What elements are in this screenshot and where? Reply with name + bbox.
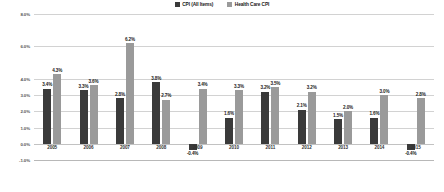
bar-group: -0.4%2.8%2015 xyxy=(398,14,434,160)
bar-group: 3.4%4.3%2005 xyxy=(34,14,70,160)
bar-value-label: 1.5% xyxy=(333,113,343,118)
x-axis-tick-label: 2010 xyxy=(229,145,239,150)
bar-cpi-2008[interactable] xyxy=(152,82,160,144)
bar-hc-2007[interactable] xyxy=(126,43,134,144)
bar-value-label: 2.1% xyxy=(297,103,307,108)
bar-group: 2.8%6.2%2007 xyxy=(107,14,143,160)
legend-swatch-cpi-icon xyxy=(175,2,180,7)
gridline: -1.0% xyxy=(34,160,434,161)
bar-value-label: 3.8% xyxy=(151,76,161,81)
y-axis-tick-label: 3.0% xyxy=(20,93,30,98)
bar-group: 1.6%3.3%2010 xyxy=(216,14,252,160)
bar-hc-2011[interactable] xyxy=(271,87,279,144)
bar-group: 3.8%2.7%2008 xyxy=(143,14,179,160)
x-axis-tick-label: 2007 xyxy=(120,145,130,150)
bar-value-label: 6.2% xyxy=(125,37,135,42)
x-axis-tick-label: 2014 xyxy=(374,145,384,150)
bar-cpi-2006[interactable] xyxy=(80,90,88,144)
bar-group: 1.5%2.0%2013 xyxy=(325,14,361,160)
bar-groups: 3.4%4.3%20053.3%3.6%20062.8%6.2%20073.8%… xyxy=(34,14,434,160)
bar-value-label: 2.8% xyxy=(115,92,125,97)
x-axis-tick-label: 2011 xyxy=(266,145,276,150)
bar-group: 3.3%3.6%2006 xyxy=(70,14,106,160)
bar-hc-2010[interactable] xyxy=(235,90,243,144)
bar-value-label: 2.7% xyxy=(161,93,171,98)
bar-value-label: 3.6% xyxy=(89,79,99,84)
bar-group: 1.6%3.0%2014 xyxy=(361,14,397,160)
x-axis-tick-label: 2013 xyxy=(338,145,348,150)
y-axis-tick-label: 0.0% xyxy=(20,141,30,146)
bar-value-label: 3.5% xyxy=(270,81,280,86)
bar-value-label: 2.0% xyxy=(343,105,353,110)
x-axis-tick-label: 2009 xyxy=(193,145,203,150)
bar-hc-2014[interactable] xyxy=(380,95,388,144)
bar-value-label: 3.2% xyxy=(260,85,270,90)
x-axis-tick-label: 2012 xyxy=(302,145,312,150)
y-axis-tick-label: 1.0% xyxy=(20,125,30,130)
bar-value-label: 3.3% xyxy=(79,84,89,89)
legend-item-health-care: Health Care CPI xyxy=(227,2,269,7)
bar-hc-2013[interactable] xyxy=(344,111,352,143)
chart-legend: CPI (All Items) Health Care CPI xyxy=(0,2,444,7)
x-axis-tick-label: 2006 xyxy=(84,145,94,150)
x-axis-tick-label: 2015 xyxy=(411,145,421,150)
bar-hc-2015[interactable] xyxy=(417,98,425,143)
bar-value-label: 4.3% xyxy=(52,68,62,73)
bar-value-label: -0.4% xyxy=(187,151,198,156)
bar-value-label: 3.0% xyxy=(379,89,389,94)
bar-chart: CPI (All Items) Health Care CPI 8.0%6.0%… xyxy=(0,0,444,192)
bar-hc-2008[interactable] xyxy=(162,100,170,144)
x-axis-tick-label: 2005 xyxy=(47,145,57,150)
y-axis-tick-label: 6.0% xyxy=(20,44,30,49)
bar-group: 2.1%3.2%2012 xyxy=(289,14,325,160)
bar-value-label: -0.4% xyxy=(405,151,416,156)
y-axis-tick-label: -1.0% xyxy=(19,158,30,163)
bar-cpi-2013[interactable] xyxy=(334,119,342,143)
bar-value-label: 3.4% xyxy=(198,82,208,87)
y-axis-tick-label: 4.0% xyxy=(20,76,30,81)
bar-value-label: 3.3% xyxy=(234,84,244,89)
y-axis-tick-label: 2.0% xyxy=(20,109,30,114)
bar-group: -0.4%3.4%2009 xyxy=(179,14,215,160)
bar-cpi-2014[interactable] xyxy=(370,118,378,144)
legend-item-cpi: CPI (All Items) xyxy=(175,2,214,7)
legend-label-cpi: CPI (All Items) xyxy=(182,2,213,7)
bar-value-label: 1.6% xyxy=(224,111,234,116)
bar-hc-2006[interactable] xyxy=(90,85,98,143)
bar-cpi-2007[interactable] xyxy=(116,98,124,143)
bar-hc-2012[interactable] xyxy=(308,92,316,144)
bar-group: 3.2%3.5%2011 xyxy=(252,14,288,160)
bar-value-label: 2.8% xyxy=(416,92,426,97)
bar-cpi-2010[interactable] xyxy=(225,118,233,144)
legend-swatch-health-care-icon xyxy=(227,2,232,7)
legend-label-health-care: Health Care CPI xyxy=(235,2,270,7)
x-axis-tick-label: 2008 xyxy=(156,145,166,150)
bar-hc-2009[interactable] xyxy=(199,89,207,144)
y-axis-tick-label: 8.0% xyxy=(20,12,30,17)
bar-value-label: 1.6% xyxy=(369,111,379,116)
bar-cpi-2005[interactable] xyxy=(43,89,51,144)
bar-hc-2005[interactable] xyxy=(53,74,61,144)
plot-area: 8.0%6.0%4.0%3.0%2.0%1.0%0.0%-1.0% 3.4%4.… xyxy=(34,14,434,160)
bar-value-label: 3.4% xyxy=(42,82,52,87)
bar-cpi-2012[interactable] xyxy=(298,110,306,144)
bar-value-label: 3.2% xyxy=(307,85,317,90)
bar-cpi-2011[interactable] xyxy=(261,92,269,144)
